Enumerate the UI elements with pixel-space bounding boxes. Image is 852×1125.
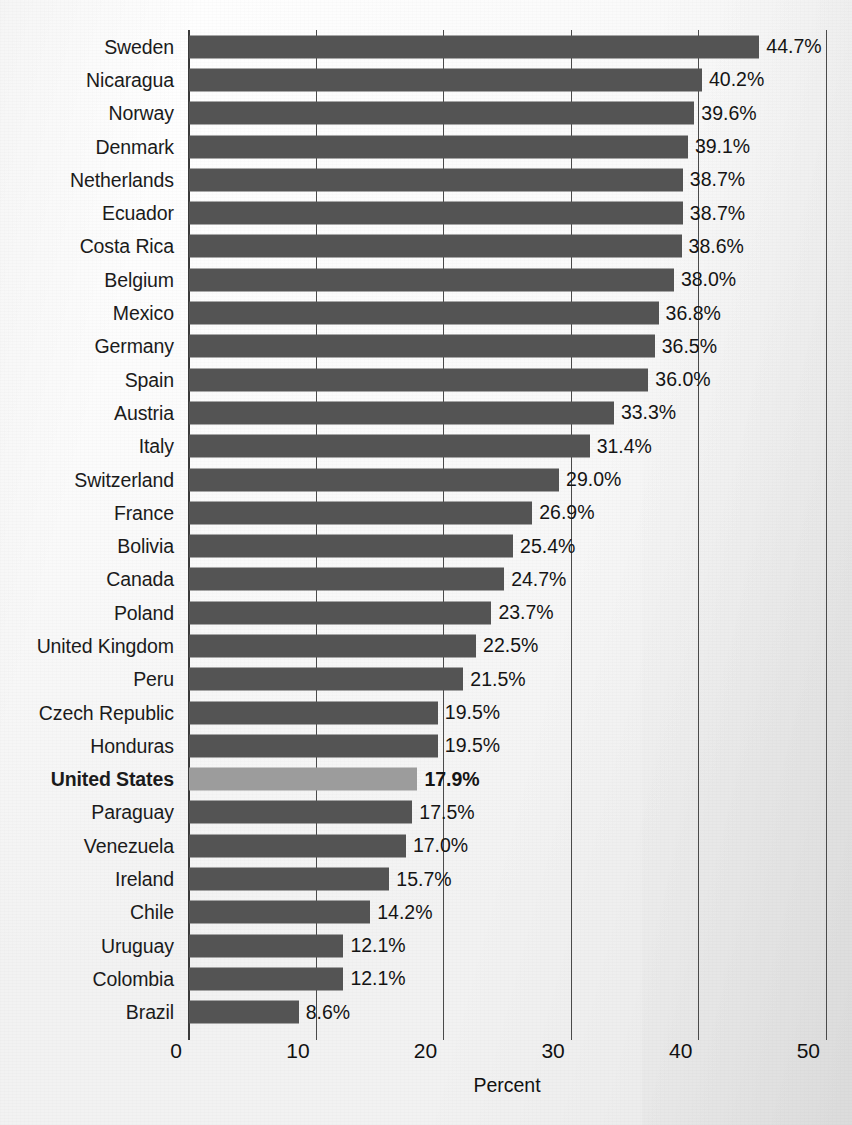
bar-row: Honduras19.5% [0,729,852,762]
category-label: Switzerland [74,468,174,491]
bar [189,535,513,558]
bar [189,335,655,358]
bar-row: Uruguay12.1% [0,929,852,962]
category-label: Peru [133,668,174,691]
bar-chart: Sweden44.7%Nicaragua40.2%Norway39.6%Denm… [0,0,852,1125]
category-label: Ecuador [102,202,174,225]
x-tick-label-10: 10 [286,1040,315,1061]
bar-value-label: 26.9% [539,501,594,524]
bar-value-label: 8.6% [306,1001,350,1024]
bar-track: 38.7% [189,202,683,225]
bar-track: 36.5% [189,335,655,358]
bar-track: 17.0% [189,834,406,857]
bar-value-label: 40.2% [709,68,764,91]
bar-track: 38.7% [189,168,683,191]
bar-track: 19.5% [189,701,438,724]
bar-row: Peru21.5% [0,663,852,696]
bar-value-label: 29.0% [566,468,621,491]
category-label: Canada [106,568,174,591]
bar [189,967,343,990]
bar [189,734,438,757]
bar [189,435,590,458]
bar-row: United States17.9% [0,763,852,796]
bar-value-label: 22.5% [483,634,538,657]
x-tick-label-0: 0 [170,1040,188,1061]
bar-track: 40.2% [189,68,702,91]
category-label: France [114,501,174,524]
category-label: Italy [139,435,174,458]
category-label: Belgium [104,268,174,291]
chart-page: Sweden44.7%Nicaragua40.2%Norway39.6%Denm… [0,0,852,1125]
bar-value-label: 38.6% [689,235,744,258]
bar-track: 39.6% [189,102,694,125]
bar [189,1001,299,1024]
bar-row: Paraguay17.5% [0,796,852,829]
bar-value-label: 38.0% [681,268,736,291]
bar-row: Belgium38.0% [0,263,852,296]
bar-value-label: 19.5% [445,734,500,757]
bar [189,901,370,924]
bar-row: Czech Republic19.5% [0,696,852,729]
bar [189,601,491,624]
bar-row: Colombia12.1% [0,962,852,995]
bar-track: 12.1% [189,967,343,990]
bar [189,68,702,91]
bar [189,934,343,957]
bar [189,401,614,424]
bar-track: 17.5% [189,801,412,824]
bar-row: Mexico36.8% [0,296,852,329]
bar-track: 29.0% [189,468,559,491]
bar-row: Poland23.7% [0,596,852,629]
bar-row: Ireland15.7% [0,862,852,895]
bar-value-label: 14.2% [377,901,432,924]
bar [189,35,759,58]
x-tick-label-50: 50 [797,1040,826,1061]
bar-value-label: 25.4% [520,535,575,558]
category-label: United Kingdom [37,634,174,657]
category-label: Uruguay [101,934,174,957]
bar-track: 8.6% [189,1001,299,1024]
category-label: Spain [125,368,174,391]
bar [189,701,438,724]
bar-value-label: 39.6% [701,102,756,125]
category-label: Colombia [92,967,174,990]
category-label: Chile [130,901,174,924]
bar-value-label: 31.4% [597,435,652,458]
bar-row: Costa Rica38.6% [0,230,852,263]
bar-row: Spain36.0% [0,363,852,396]
bar-row: France26.9% [0,496,852,529]
bar-row: Switzerland29.0% [0,463,852,496]
bar [189,868,389,891]
category-label: Denmark [96,135,174,158]
bar-track: 39.1% [189,135,688,158]
bar-row: Chile14.2% [0,896,852,929]
category-label: Netherlands [70,168,174,191]
bar-track: 31.4% [189,435,590,458]
x-tick-label-30: 30 [541,1040,570,1061]
bar-value-label: 39.1% [695,135,750,158]
bar-track: 15.7% [189,868,389,891]
bar [189,368,648,391]
bar-track: 36.8% [189,302,659,325]
bar-value-label: 23.7% [498,601,553,624]
category-label: Germany [95,335,175,358]
x-tick-label-20: 20 [414,1040,443,1061]
bar-row: Austria33.3% [0,396,852,429]
bar-track: 17.9% [189,768,417,791]
x-axis-label: Percent [188,1074,826,1097]
bar [189,468,559,491]
bar-value-label: 17.0% [413,834,468,857]
bar-value-label: 44.7% [766,35,821,58]
bar-row: Nicaragua40.2% [0,63,852,96]
x-tick-label-40: 40 [669,1040,698,1061]
bar [189,168,683,191]
bar [189,801,412,824]
category-label: Venezuela [84,834,174,857]
bar-track: 12.1% [189,934,343,957]
category-label: Brazil [126,1001,174,1024]
bar-row: Denmark39.1% [0,130,852,163]
bar-value-label: 33.3% [621,401,676,424]
bar-value-label: 36.5% [662,335,717,358]
bar-row: Italy31.4% [0,430,852,463]
bar-track: 23.7% [189,601,491,624]
